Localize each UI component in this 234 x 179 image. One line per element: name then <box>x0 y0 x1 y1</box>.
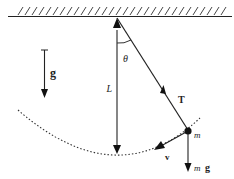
mass-label: m <box>194 130 201 140</box>
length-line <box>113 18 121 154</box>
weight-label-m: m <box>194 163 201 173</box>
velocity-label: v <box>165 152 170 162</box>
angle-arc <box>117 40 131 43</box>
swing-path <box>18 110 200 155</box>
ceiling <box>8 7 232 17</box>
pendulum-bob <box>184 127 191 134</box>
gravity-label: g <box>50 66 56 80</box>
pendulum-diagram: g θ L T m v m g <box>0 0 234 179</box>
velocity-arrow <box>154 131 188 150</box>
pendulum-string <box>117 18 188 130</box>
gravity-arrow <box>41 50 48 98</box>
weight-label-g: g <box>205 162 210 173</box>
angle-label: θ <box>123 53 128 64</box>
length-label: L <box>105 83 112 94</box>
tension-label: T <box>178 94 185 105</box>
weight-arrow <box>185 131 192 172</box>
